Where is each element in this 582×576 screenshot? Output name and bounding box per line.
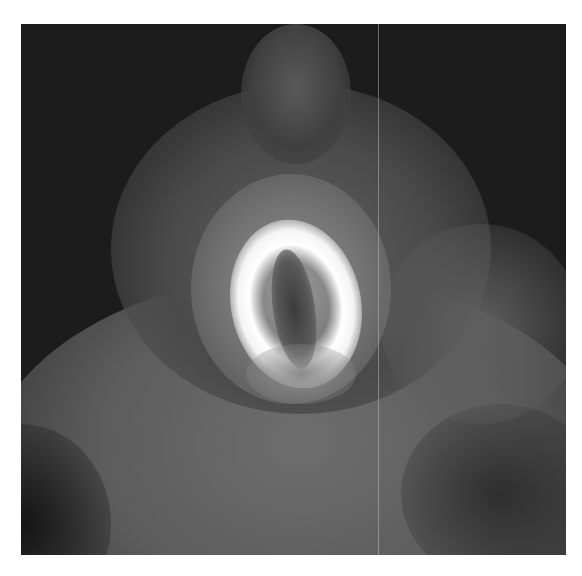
cardiac-scan-image <box>21 24 566 555</box>
vertical-artifact-line <box>378 24 379 555</box>
valve-plane <box>246 344 356 404</box>
top-structure <box>241 24 351 164</box>
right-tissue <box>381 224 566 424</box>
